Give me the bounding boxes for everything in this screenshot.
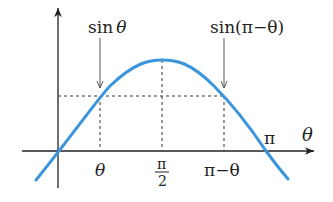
sin-pi-minus-theta-label: sin(π−θ) [210, 17, 284, 37]
half-pi-denominator: 2 [158, 173, 167, 189]
pi-minus-theta-tick-label: π−θ [204, 160, 240, 180]
x-axis-label: θ [302, 124, 313, 145]
sine-diagram: sinθ sin(π−θ) θ π 2 π−θ π θ [0, 0, 333, 202]
half-pi-numerator: π [157, 156, 166, 172]
pi-tick-label: π [264, 128, 275, 148]
sin-theta-label: sinθ [88, 17, 126, 37]
theta-tick-label: θ [95, 160, 105, 180]
